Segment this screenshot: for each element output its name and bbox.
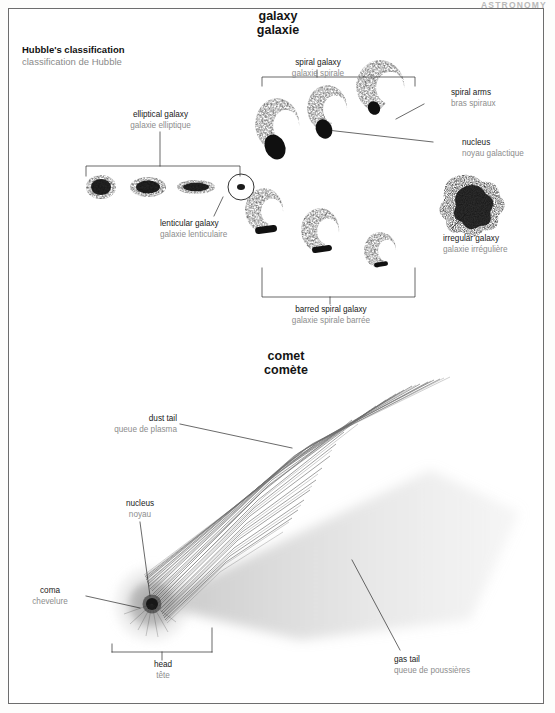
label-lenticular-galaxy-en: lenticular galaxy xyxy=(160,219,227,230)
label-coma-fr: chevelure xyxy=(14,597,86,608)
galaxy-section-title: galaxy galaxie xyxy=(178,10,378,37)
label-dust-tail: dust tail queue de plasma xyxy=(62,414,177,435)
label-irregular-galaxy-en: irregular galaxy xyxy=(443,234,508,245)
label-gas-tail-en: gas tail xyxy=(394,655,470,666)
label-galaxy-nucleus: nucleus noyau galactique xyxy=(462,138,524,159)
label-barred-spiral-galaxy-en: barred spiral galaxy xyxy=(266,305,396,316)
label-comet-nucleus: nucleus noyau xyxy=(108,499,172,520)
label-spiral-galaxy: spiral galaxy galaxie spirale xyxy=(258,58,378,79)
label-spiral-galaxy-en: spiral galaxy xyxy=(258,58,378,69)
label-spiral-galaxy-fr: galaxie spirale xyxy=(258,69,378,80)
label-coma-en: coma xyxy=(14,586,86,597)
galaxy-title-en: galaxy xyxy=(178,10,378,24)
label-spiral-arms: spiral arms bras spiraux xyxy=(451,88,496,109)
hubble-classification-heading: Hubble's classification classification d… xyxy=(22,44,125,68)
label-coma: coma chevelure xyxy=(14,586,86,607)
label-dust-tail-en: dust tail xyxy=(62,414,177,425)
label-spiral-arms-fr: bras spiraux xyxy=(451,99,496,110)
label-galaxy-nucleus-en: nucleus xyxy=(462,138,524,149)
label-barred-spiral-galaxy: barred spiral galaxy galaxie spirale bar… xyxy=(266,305,396,326)
label-elliptical-galaxy-fr: galaxie elliptique xyxy=(103,121,218,132)
label-barred-spiral-galaxy-fr: galaxie spirale barrée xyxy=(266,316,396,327)
label-lenticular-galaxy-fr: galaxie lenticulaire xyxy=(160,230,227,241)
comet-title-fr: comète xyxy=(186,364,386,378)
hubble-heading-en: Hubble's classification xyxy=(22,44,125,56)
label-elliptical-galaxy-en: elliptical galaxy xyxy=(103,110,218,121)
comet-title-en: comet xyxy=(186,350,386,364)
label-head-en: head xyxy=(136,660,190,671)
label-gas-tail-fr: queue de poussières xyxy=(394,666,470,677)
label-comet-nucleus-fr: noyau xyxy=(108,510,172,521)
galaxy-title-fr: galaxie xyxy=(178,24,378,38)
hubble-heading-fr: classification de Hubble xyxy=(22,56,125,68)
label-head-fr: tête xyxy=(136,671,190,682)
label-irregular-galaxy: irregular galaxy galaxie irrégulière xyxy=(443,234,508,255)
astronomy-plate: ASTRONOMY xyxy=(0,0,555,713)
label-head: head tête xyxy=(136,660,190,681)
comet-section-title: comet comète xyxy=(186,350,386,377)
label-galaxy-nucleus-fr: noyau galactique xyxy=(462,149,524,160)
label-spiral-arms-en: spiral arms xyxy=(451,88,496,99)
label-gas-tail: gas tail queue de poussières xyxy=(394,655,470,676)
label-irregular-galaxy-fr: galaxie irrégulière xyxy=(443,245,508,256)
label-dust-tail-fr: queue de plasma xyxy=(62,425,177,436)
label-lenticular-galaxy: lenticular galaxy galaxie lenticulaire xyxy=(160,219,227,240)
label-elliptical-galaxy: elliptical galaxy galaxie elliptique xyxy=(103,110,218,131)
label-comet-nucleus-en: nucleus xyxy=(108,499,172,510)
